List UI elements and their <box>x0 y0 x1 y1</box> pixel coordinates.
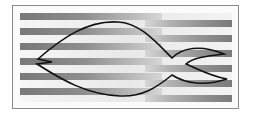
fish-stripe-illusion <box>0 0 253 117</box>
